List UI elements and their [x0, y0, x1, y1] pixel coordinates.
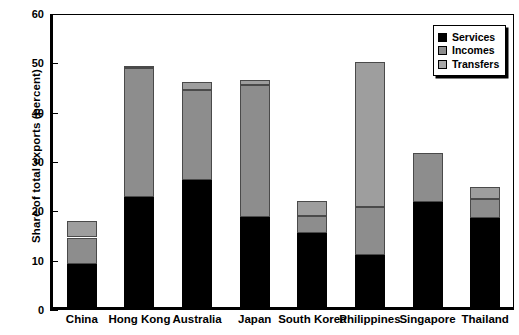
- stacked-bar-chart: Share of total exports (percent) 0102030…: [0, 0, 519, 335]
- y-tick-label: 40: [12, 107, 44, 119]
- y-tick-mark: [50, 310, 58, 311]
- bar-segment-services: [67, 264, 97, 310]
- bar-segment-incomes: [297, 216, 327, 233]
- legend-swatch-incomes: [438, 46, 447, 55]
- bar-group: [67, 14, 97, 310]
- y-tick-label: 30: [12, 156, 44, 168]
- y-tick-label: 60: [12, 8, 44, 20]
- bar-segment-services: [182, 180, 212, 310]
- legend-swatch-services: [438, 33, 447, 42]
- bar-segment-transfers: [124, 66, 154, 68]
- bar-group: [182, 14, 212, 310]
- legend-item-transfers: Transfers: [438, 58, 499, 71]
- legend-item-incomes: Incomes: [438, 44, 499, 57]
- bar-segment-transfers: [355, 62, 385, 207]
- legend-swatch-transfers: [438, 60, 447, 69]
- x-axis-label-singapore: Singapore: [399, 313, 455, 325]
- y-tick-label: 0: [12, 304, 44, 316]
- legend-label: Transfers: [452, 59, 499, 70]
- x-axis-label-japan: Japan: [238, 313, 271, 325]
- bar-segment-incomes: [413, 153, 443, 202]
- bar-segment-transfers: [240, 80, 270, 85]
- bar-group: [297, 14, 327, 310]
- chart-legend: ServicesIncomesTransfers: [433, 25, 506, 76]
- bar-segment-transfers: [470, 187, 500, 199]
- bar-segment-services: [297, 233, 327, 310]
- x-axis-labels: ChinaHong KongAustraliaJapanSouth KoreaP…: [53, 313, 514, 335]
- bar-segment-incomes: [240, 85, 270, 218]
- bar-segment-services: [413, 202, 443, 310]
- bar-segment-transfers: [297, 201, 327, 216]
- bar-segment-services: [470, 218, 500, 310]
- x-axis-label-australia: Australia: [172, 313, 221, 325]
- y-tick-label: 10: [12, 255, 44, 267]
- bar-segment-incomes: [470, 199, 500, 218]
- bar-segment-services: [124, 197, 154, 310]
- x-axis-label-thailand: Thailand: [462, 313, 509, 325]
- legend-label: Incomes: [452, 45, 495, 56]
- x-axis-label-south-korea: South Korea: [278, 313, 346, 325]
- bar-segment-services: [240, 217, 270, 310]
- y-tick-label: 20: [12, 205, 44, 217]
- bar-group: [240, 14, 270, 310]
- legend-label: Services: [452, 32, 495, 43]
- bar-segment-transfers: [182, 82, 212, 91]
- x-axis-label-philippines: Philippines: [339, 313, 400, 325]
- bar-segment-incomes: [67, 238, 97, 265]
- legend-item-services: Services: [438, 31, 499, 44]
- bar-segment-transfers: [67, 221, 97, 237]
- x-axis-label-hong-kong: Hong Kong: [108, 313, 170, 325]
- bar-segment-incomes: [182, 90, 212, 180]
- y-tick-label: 50: [12, 57, 44, 69]
- bar-segment-services: [355, 255, 385, 310]
- bar-group: [355, 14, 385, 310]
- bar-group: [124, 14, 154, 310]
- bar-segment-incomes: [124, 68, 154, 197]
- x-axis-label-china: China: [66, 313, 98, 325]
- bar-segment-incomes: [355, 207, 385, 255]
